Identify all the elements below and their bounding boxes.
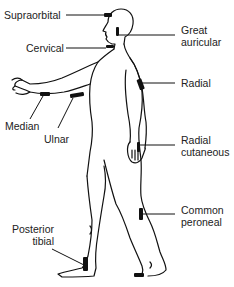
label-radial-cutaneous-line2: cutaneous bbox=[181, 146, 229, 158]
leader-ulnar bbox=[58, 98, 73, 128]
electrode-radial-cutaneous bbox=[137, 142, 140, 152]
electrode-ulnar bbox=[70, 92, 84, 98]
rear-arm-outline bbox=[125, 58, 146, 148]
label-posterior-tibial-line2: tibial bbox=[10, 235, 54, 247]
knee-line bbox=[90, 226, 92, 234]
label-great-auricular-line1: Great bbox=[181, 24, 221, 36]
label-radial-cutaneous-line1: Radial bbox=[181, 134, 229, 146]
rear-leg-outline bbox=[104, 160, 143, 276]
leader-median bbox=[30, 96, 43, 119]
electrode-median bbox=[40, 92, 50, 96]
label-common-peroneal-line2: peroneal bbox=[181, 216, 224, 228]
label-great-auricular: Great auricular bbox=[181, 24, 221, 48]
label-radial-cutaneous: Radial cutaneous bbox=[181, 134, 229, 158]
label-posterior-tibial-line1: Posterior bbox=[10, 223, 54, 235]
front-arm-outline bbox=[15, 62, 98, 94]
electrode-radial bbox=[136, 78, 144, 90]
electrode-foot bbox=[134, 273, 144, 277]
leader-posterior-tibial bbox=[52, 249, 84, 265]
label-ulnar: Ulnar bbox=[44, 133, 69, 145]
front-torso-outline bbox=[87, 49, 114, 176]
label-common-peroneal-line1: Common bbox=[181, 204, 224, 216]
label-common-peroneal: Common peroneal bbox=[181, 204, 224, 228]
ankle-line bbox=[150, 262, 152, 268]
front-leg-outline bbox=[58, 166, 106, 277]
label-great-auricular-line2: auricular bbox=[181, 36, 221, 48]
label-radial: Radial bbox=[181, 77, 211, 89]
nerve-diagram: Supraorbital Cervical Great auricular Ra… bbox=[0, 0, 234, 287]
label-posterior-tibial: Posterior tibial bbox=[10, 223, 54, 247]
label-median: Median bbox=[5, 120, 39, 132]
electrode-supraorbital bbox=[104, 13, 112, 17]
label-cervical: Cervical bbox=[26, 42, 64, 54]
label-supraorbital: Supraorbital bbox=[4, 9, 61, 21]
electrode-great-auricular bbox=[116, 27, 119, 36]
electrode-cervical bbox=[106, 45, 114, 48]
electrode-posterior-tibial bbox=[83, 257, 88, 271]
